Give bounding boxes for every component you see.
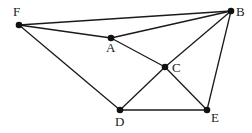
diagram-canvas: FBACDE xyxy=(0,0,252,133)
edge-CD xyxy=(120,67,165,110)
edge-BC xyxy=(165,11,231,67)
point-C xyxy=(162,64,169,71)
point-label-E: E xyxy=(211,110,219,125)
point-label-C: C xyxy=(172,60,181,75)
point-E xyxy=(204,107,211,114)
point-F xyxy=(16,22,23,29)
geometry-diagram: FBACDE xyxy=(0,0,252,133)
point-label-F: F xyxy=(13,4,20,19)
point-D xyxy=(117,107,124,114)
point-label-A: A xyxy=(106,40,116,55)
edge-BE xyxy=(207,11,231,110)
point-B xyxy=(228,8,235,15)
point-label-B: B xyxy=(236,4,245,19)
point-label-D: D xyxy=(115,114,124,129)
edge-AC xyxy=(111,38,165,67)
